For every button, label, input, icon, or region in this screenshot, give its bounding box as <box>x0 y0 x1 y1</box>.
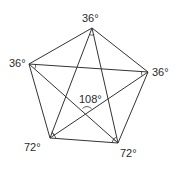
pentagon-outline <box>29 28 148 143</box>
label-right-angle: 36° <box>152 66 169 78</box>
angle-arc-left <box>35 64 36 68</box>
label-left-angle: 36° <box>9 57 26 69</box>
diagonal-left-right <box>29 64 148 72</box>
angle-labels: 36° 36° 36° 72° 72° 108° <box>9 12 169 159</box>
edge-bottomleft-left <box>29 64 50 138</box>
angle-arc-top <box>90 35 95 36</box>
label-top-angle: 36° <box>82 12 99 24</box>
diagonal-top-bottomleft <box>50 28 92 138</box>
diagram-canvas: 36° 36° 36° 72° 72° 108° <box>0 0 178 169</box>
angle-markers <box>35 35 143 143</box>
edge-bottom <box>50 138 118 143</box>
label-center-angle: 108° <box>79 93 102 105</box>
label-bottom-left-angle: 72° <box>24 141 41 153</box>
label-bottom-right-angle: 72° <box>120 147 137 159</box>
diagonal-right-bottomleft <box>50 72 148 138</box>
angle-arc-center <box>83 107 92 109</box>
pentagon-diagram: 36° 36° 36° 72° 72° 108° <box>0 0 178 169</box>
edge-left-top <box>29 28 92 64</box>
angle-arc-right <box>141 72 142 76</box>
